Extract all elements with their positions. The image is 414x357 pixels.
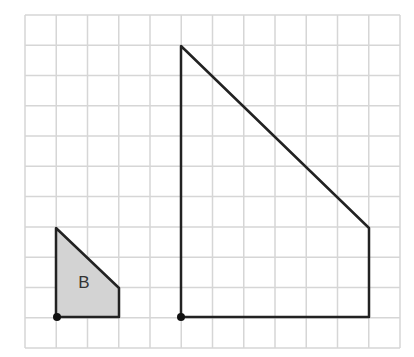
grid-diagram: B — [0, 0, 414, 357]
shape-b-label: B — [78, 273, 89, 292]
